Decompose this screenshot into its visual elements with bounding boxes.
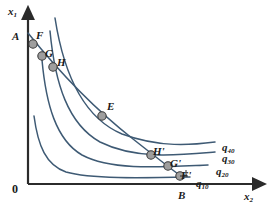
isoquant-curves-group xyxy=(34,18,215,178)
point-label-F-prime: F' xyxy=(181,170,191,181)
point-label-E: E xyxy=(107,101,114,112)
isoquant-curve-q30 xyxy=(50,31,215,155)
point-marker-E xyxy=(98,112,106,120)
point-label-F: F xyxy=(36,30,43,41)
isoquant-curve-q40 xyxy=(55,18,215,145)
curve-label-q20: q20 xyxy=(216,166,229,177)
endpoint-label-B: B xyxy=(178,190,185,201)
curve-label-q40: q40 xyxy=(222,142,235,153)
point-label-G: G xyxy=(45,48,53,59)
endpoint-label-A: A xyxy=(12,31,19,42)
point-marker-F xyxy=(29,40,37,48)
y-axis-label: x1 xyxy=(8,6,17,17)
point-label-H: H xyxy=(57,57,66,68)
curve-label-q10: q10 xyxy=(196,178,209,189)
origin-label: 0 xyxy=(12,183,18,195)
point-label-H-prime: H' xyxy=(153,146,165,157)
point-marker-H xyxy=(49,63,57,71)
axes-group xyxy=(28,18,254,184)
isoquant-figure: x1 x2 0 A B F G H E H' G' F' q10 q20 q30… xyxy=(0,0,273,215)
point-label-G-prime: G' xyxy=(170,158,181,169)
x-axis-label: x2 xyxy=(244,191,253,202)
